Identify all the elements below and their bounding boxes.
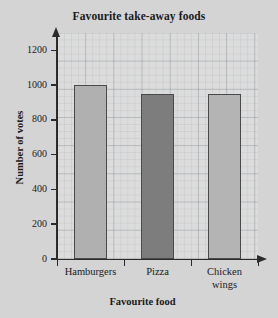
- y-tick-label-800: 800: [5, 113, 47, 124]
- bar-hamburgers: [74, 85, 107, 259]
- y-axis-arrow-icon: [52, 27, 60, 37]
- bar-chart-figure: Favourite take-away foods Number of vote…: [0, 0, 278, 318]
- y-tick-label-400: 400: [5, 183, 47, 194]
- y-tick-800: [51, 119, 58, 121]
- x-tick-0: [57, 259, 58, 266]
- x-tick-3: [258, 259, 259, 266]
- y-tick-label-1200: 1200: [5, 44, 47, 55]
- category-label-chicken-wings: Chickenwings: [191, 266, 258, 291]
- category-label-hamburgers: Hamburgers: [57, 266, 124, 279]
- x-axis-label: Favourite food: [40, 296, 245, 307]
- y-tick-label-1000: 1000: [5, 79, 47, 90]
- x-tick-1: [124, 259, 125, 266]
- x-axis-line: [52, 259, 258, 261]
- category-label-pizza: Pizza: [124, 266, 191, 279]
- bar-pizza: [141, 94, 174, 259]
- y-tick-1000: [51, 84, 58, 86]
- y-tick-200: [51, 223, 58, 225]
- y-tick-1200: [51, 50, 58, 52]
- y-tick-label-0: 0: [5, 253, 47, 264]
- y-tick-600: [51, 154, 58, 156]
- chart-title: Favourite take-away foods: [0, 10, 278, 22]
- bar-chicken-wings: [208, 94, 241, 259]
- x-tick-2: [191, 259, 192, 266]
- plot-area: [57, 33, 258, 259]
- y-tick-label-600: 600: [5, 148, 47, 159]
- y-axis-line: [56, 36, 58, 260]
- y-tick-label-200: 200: [5, 218, 47, 229]
- y-tick-400: [51, 189, 58, 191]
